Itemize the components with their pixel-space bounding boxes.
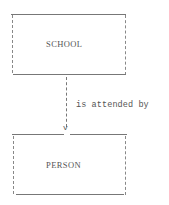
box-border-top: [11, 14, 126, 15]
box-border-bottom: [13, 74, 126, 75]
box-border-right: [125, 136, 126, 195]
box-border-left: [13, 136, 14, 194]
entity-box-person: PERSON: [12, 134, 127, 196]
box-border-bottom: [16, 194, 124, 195]
relationship-label: is attended by: [76, 100, 149, 110]
box-border-top-left: [12, 134, 64, 135]
entity-label-school: SCHOOL: [46, 39, 82, 49]
arrow-down-icon: v: [63, 123, 68, 133]
box-border-top-right: [70, 134, 127, 135]
box-border-right: [125, 15, 126, 75]
box-border-left: [12, 15, 13, 73]
entity-box-school: SCHOOL: [11, 14, 126, 75]
relationship-connector-line: [66, 77, 67, 127]
entity-label-person: PERSON: [46, 160, 81, 170]
